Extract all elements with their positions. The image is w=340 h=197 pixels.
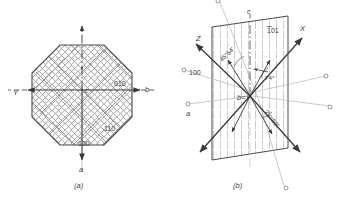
- panel-a-face-010-label: 010: [114, 80, 126, 87]
- panel-b-axis-Z-label: Z: [195, 34, 201, 43]
- panel-b-center-label: b=Y: [237, 93, 252, 102]
- panel-a-axis-b-label: b: [145, 85, 149, 94]
- panel-b-face-100-label: 100: [189, 69, 201, 76]
- panel-b: X Z c a 100 101 45°54' 74° 2V=60° b=Y (b…: [182, 0, 332, 190]
- octagon-hatching: [28, 38, 138, 152]
- panel-a-axis-a-label: a: [79, 165, 83, 174]
- panel-a-center-point: [81, 89, 83, 91]
- panel-b-face-1bar01: 101: [267, 27, 279, 35]
- panel-a: c b Y a 010 110 100 (a): [8, 26, 154, 190]
- figure-svg: c b Y a 010 110 100 (a): [0, 0, 340, 197]
- panel-b-axis-a-label: a: [186, 109, 190, 118]
- panel-a-face-110-label: 110: [104, 125, 115, 132]
- panel-b-axis-X-label: X: [299, 24, 306, 33]
- panel-b-face-1bar01-label: 101: [267, 27, 279, 34]
- figure-root: c b Y a 010 110 100 (a): [0, 0, 340, 197]
- panel-a-center-label: c: [85, 86, 89, 95]
- panel-a-caption: (a): [74, 181, 84, 190]
- panel-a-c-tick: [81, 67, 83, 69]
- panel-a-face-100-label: 100: [78, 140, 90, 147]
- panel-b-caption: (b): [233, 181, 243, 190]
- panel-b-axis-c-label: c: [247, 7, 251, 16]
- panel-a-axis-Y-label: Y: [13, 88, 19, 97]
- panel-b-angle-74-label: 74°: [265, 74, 275, 81]
